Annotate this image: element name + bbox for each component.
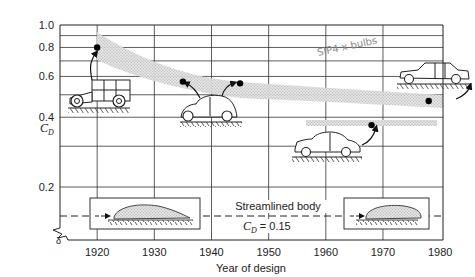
y-tick-label: 0.8 — [39, 41, 54, 53]
x-tick-label: 1930 — [142, 246, 166, 258]
streamlined-body-label: Streamlined body — [235, 200, 321, 212]
data-point — [180, 78, 186, 84]
data-point — [94, 44, 100, 50]
upper-trend-band — [97, 32, 443, 108]
data-point — [426, 98, 432, 104]
data-point — [368, 122, 374, 128]
x-axis-title: Year of design — [216, 262, 286, 274]
y-axis-title-subscript: D — [47, 128, 54, 137]
x-tick-label: 1960 — [314, 246, 338, 258]
x-tick-labels: 1920193019401950196019701980 — [85, 246, 452, 258]
streamlined-body-diagram-left — [90, 198, 200, 229]
trend-bands — [97, 32, 443, 126]
y-tick-label: 0.6 — [39, 70, 54, 82]
car-1960-illustration — [292, 128, 376, 162]
x-tick-label: 1980 — [428, 246, 452, 258]
streamlined-body-diagram-right — [344, 198, 429, 229]
x-tick-label: 1950 — [256, 246, 280, 258]
y-tick-label: 1.0 — [39, 19, 54, 31]
y-tick-label: 0.2 — [39, 181, 54, 193]
x-tick-label: 1940 — [199, 246, 223, 258]
drag-coefficient-chart: δ 0.20.40.60.81.0 1920193019401950196019… — [0, 0, 475, 277]
x-tick-label: 1920 — [85, 246, 109, 258]
data-point — [237, 80, 243, 86]
y-tick-labels: 0.20.40.60.81.0 — [39, 19, 54, 193]
svg-text:δ: δ — [56, 236, 61, 246]
x-tick-label: 1970 — [371, 246, 395, 258]
